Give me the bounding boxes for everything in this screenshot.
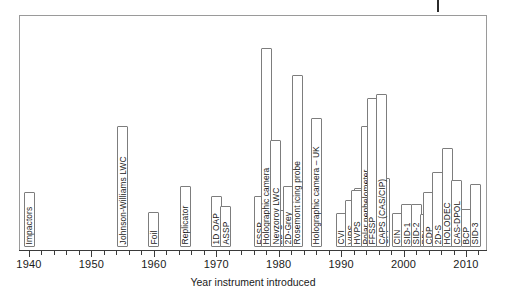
- x-axis-minor-tick: [79, 251, 80, 255]
- instrument-label: Impactors: [25, 206, 33, 244]
- instrument-bar[interactable]: ASSP: [220, 206, 231, 247]
- instrument-label: Foil: [150, 230, 158, 244]
- x-axis-minor-tick: [366, 251, 367, 255]
- x-axis-minor-tick: [66, 251, 67, 255]
- x-axis-minor-tick: [329, 251, 330, 255]
- instrument-bar[interactable]: Foil: [148, 212, 159, 247]
- instrument-label: Holographic camera – UK: [312, 146, 320, 244]
- x-axis-major-tick: [341, 251, 342, 257]
- instrument-bar[interactable]: Nevzorov LWC: [270, 140, 281, 247]
- x-axis-major-tick: [29, 251, 30, 257]
- x-axis-minor-tick: [391, 251, 392, 255]
- x-axis-minor-tick: [441, 251, 442, 255]
- instrument-label: SID-1: [402, 222, 410, 244]
- x-axis-minor-tick: [141, 251, 142, 255]
- x-axis-minor-tick: [204, 251, 205, 255]
- instrument-label: Johnson-Williams LWC: [118, 156, 126, 244]
- x-axis-minor-tick: [241, 251, 242, 255]
- x-axis-minor-tick: [416, 251, 417, 255]
- instrument-label: ASSP: [221, 221, 229, 244]
- x-axis-minor-tick: [266, 251, 267, 255]
- x-axis-label: Year instrument introduced: [0, 276, 506, 288]
- instrument-label: Rosemont icing probe: [293, 161, 301, 244]
- x-axis-minor-tick: [179, 251, 180, 255]
- x-axis-minor-tick: [191, 251, 192, 255]
- instrument-label: CAS-DPOL: [452, 200, 460, 244]
- instrument-bar[interactable]: Rosemont icing probe: [292, 75, 303, 247]
- instrument-label: HVPS: [353, 221, 361, 244]
- x-axis-minor-tick: [316, 251, 317, 255]
- x-axis-minor-tick: [166, 251, 167, 255]
- instrument-label: Nevzorov LWC: [271, 187, 279, 244]
- instrument-bar[interactable]: Holographic camera – UK: [311, 118, 322, 247]
- x-axis-major-tick: [279, 251, 280, 257]
- x-axis-minor-tick: [429, 251, 430, 255]
- x-axis-minor-tick: [379, 251, 380, 255]
- x-axis-minor-tick: [104, 251, 105, 255]
- instrument-label: Replicator: [181, 205, 189, 244]
- x-axis-minor-tick: [229, 251, 230, 255]
- x-axis-minor-tick: [54, 251, 55, 255]
- x-axis-minor-tick: [254, 251, 255, 255]
- instrument-label: CAPS (CAS/CIP): [378, 178, 386, 244]
- x-axis-tick-label: 1970: [186, 258, 246, 270]
- x-axis-major-tick: [154, 251, 155, 257]
- x-axis-major-tick: [466, 251, 467, 257]
- x-axis-tick-label: 1940: [0, 258, 59, 270]
- x-axis-tick-label: 2000: [374, 258, 434, 270]
- x-axis-major-tick: [404, 251, 405, 257]
- x-axis-major-tick: [216, 251, 217, 257]
- instrument-bar[interactable]: CAPS (CAS/CIP): [376, 94, 387, 247]
- x-axis-tick-label: 1950: [61, 258, 121, 270]
- x-axis-minor-tick: [291, 251, 292, 255]
- instrument-bar[interactable]: Replicator: [180, 186, 191, 247]
- x-axis-tick-label: 1990: [311, 258, 371, 270]
- instrument-bar[interactable]: Johnson-Williams LWC: [117, 126, 128, 247]
- instrument-bar[interactable]: Impactors: [24, 192, 35, 247]
- instrument-label: SID-3: [471, 222, 479, 244]
- x-axis-minor-tick: [41, 251, 42, 255]
- timeline-figure: ImpactorsJohnson-Williams LWCFoilReplica…: [0, 0, 506, 296]
- x-axis-minor-tick: [129, 251, 130, 255]
- x-axis-minor-tick: [116, 251, 117, 255]
- x-axis-tick-label: 2010: [436, 258, 496, 270]
- x-axis-minor-tick: [304, 251, 305, 255]
- x-axis-minor-tick: [478, 251, 479, 255]
- x-axis-major-tick: [91, 251, 92, 257]
- x-axis-minor-tick: [354, 251, 355, 255]
- instrument-bar[interactable]: SID-3: [470, 184, 481, 247]
- x-axis-tick-label: 1960: [124, 258, 184, 270]
- x-axis-minor-tick: [454, 251, 455, 255]
- x-axis-tick-label: 1980: [249, 258, 309, 270]
- top-stray-tick-mark: [437, 0, 439, 12]
